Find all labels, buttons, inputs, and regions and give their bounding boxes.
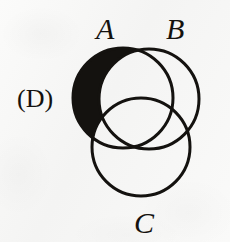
set-label-a: A bbox=[96, 14, 114, 44]
set-label-c: C bbox=[134, 208, 154, 238]
set-label-b: B bbox=[166, 14, 184, 44]
venn-diagram-figure: A B C (D) bbox=[0, 0, 230, 242]
venn-diagram-canvas bbox=[0, 0, 230, 242]
answer-choice-label: (D) bbox=[17, 86, 53, 112]
